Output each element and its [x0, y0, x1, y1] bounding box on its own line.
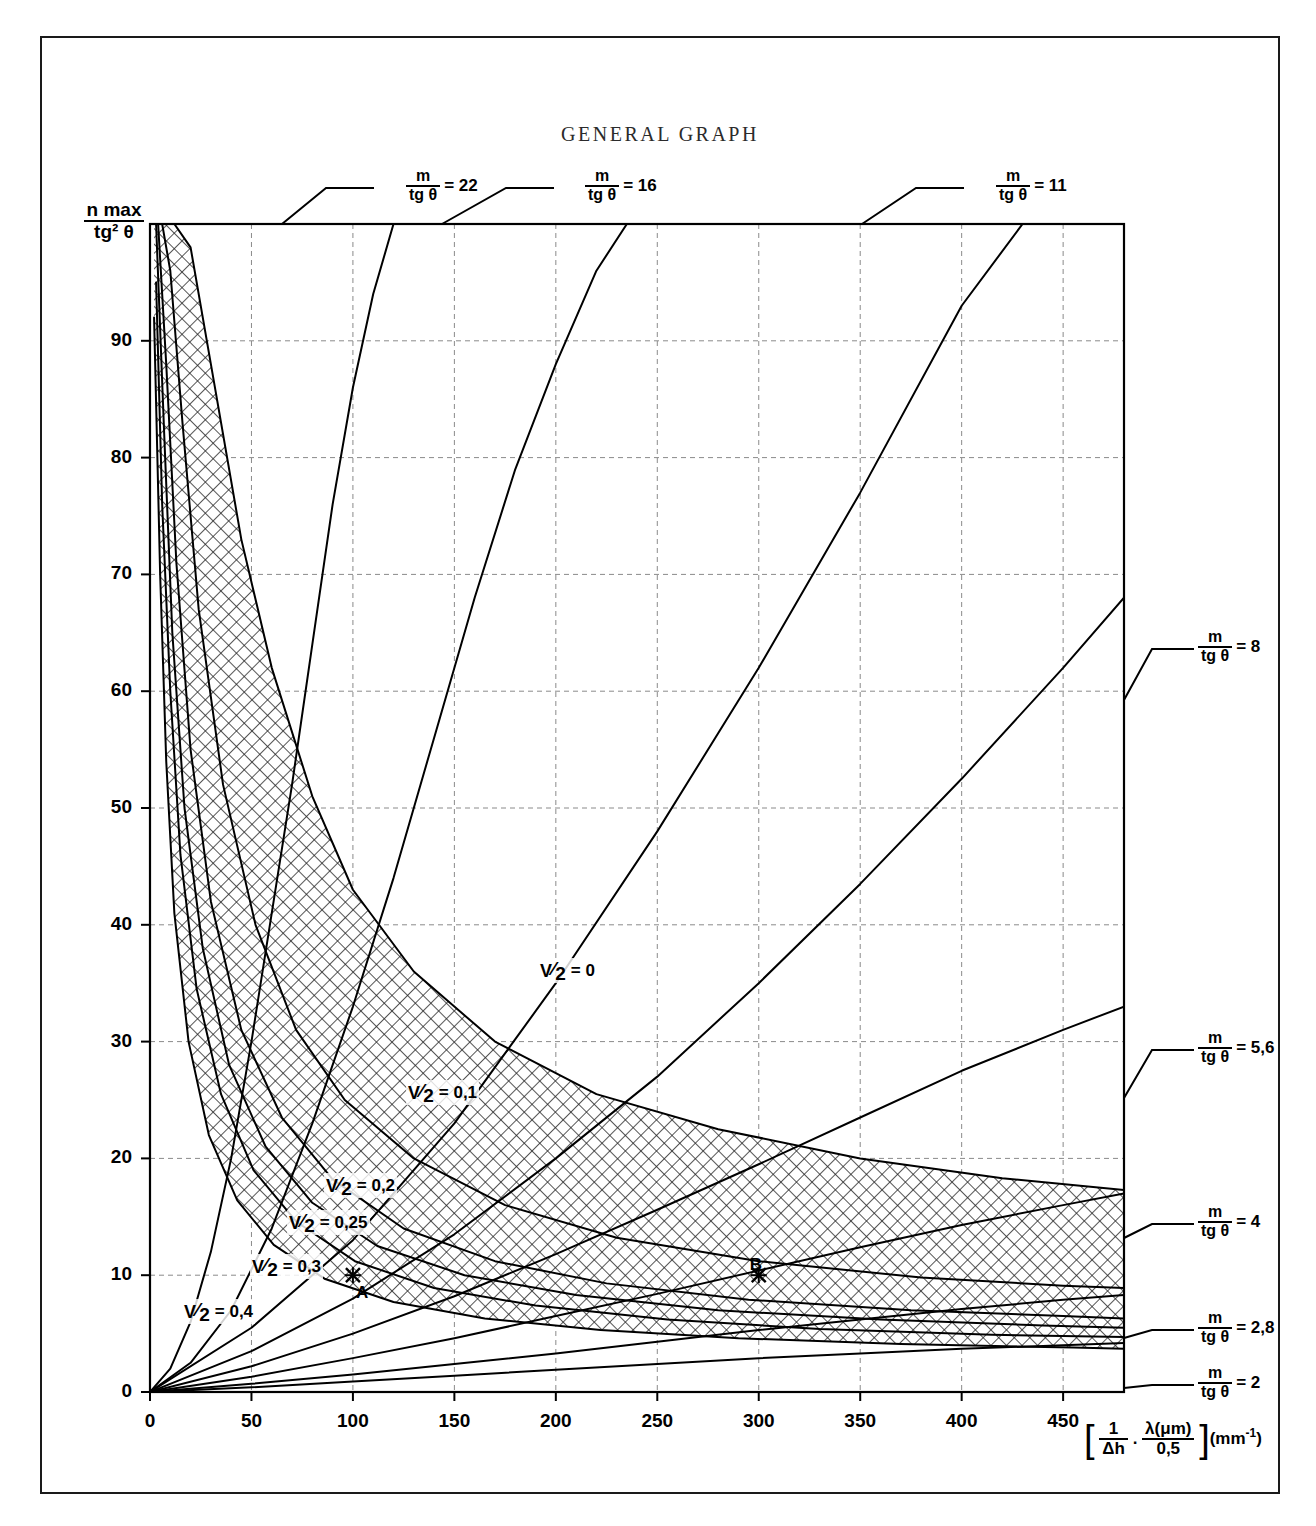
y-tick-label: 30 [82, 1030, 132, 1052]
marker-label-a: A [356, 1283, 368, 1303]
curve-m-tg-2 [150, 1343, 1124, 1392]
v-curve-label-v04: V⁄2= 0,4 [182, 1299, 255, 1324]
x-tick-label: 200 [526, 1410, 586, 1432]
m-curve-label-m11: mtg θ= 11 [996, 168, 1067, 204]
x-tick-label: 350 [830, 1410, 890, 1432]
x-tick-label: 50 [221, 1410, 281, 1432]
page-root: GENERAL GRAPH [0, 0, 1316, 1526]
m-curve-label-m22: mtg θ= 22 [406, 168, 478, 204]
x-axis-label: [ 1 Δh . λ(μm) 0,5 ](mm-1) [1084, 1420, 1262, 1458]
figure-frame: GENERAL GRAPH [40, 36, 1280, 1494]
x-tick-label: 100 [323, 1410, 383, 1432]
y-axis-label-numerator: n max [84, 200, 145, 222]
y-tick-label: 90 [82, 329, 132, 351]
x-label-f2-num: λ(μm) [1142, 1420, 1194, 1440]
y-tick-label: 50 [82, 796, 132, 818]
y-tick-label: 80 [82, 446, 132, 468]
y-tick-label: 60 [82, 679, 132, 701]
x-tick-label: 250 [627, 1410, 687, 1432]
chart-canvas [42, 38, 1282, 1496]
x-label-unit-open: (mm [1210, 1429, 1246, 1449]
v-curve-label-v01: V⁄2= 0,1 [406, 1080, 479, 1105]
v-curve-label-v0: V⁄2= 0 [538, 958, 597, 983]
y-axis-label: n max tg² θ [68, 200, 160, 242]
x-label-f1-num: 1 [1099, 1420, 1128, 1440]
v-curve-label-v03: V⁄2= 0,3 [250, 1254, 323, 1279]
y-tick-label: 70 [82, 562, 132, 584]
m-curve-label-m28: mtg θ= 2,8 [1198, 1310, 1275, 1346]
m-curve-label-m8: mtg θ= 8 [1198, 629, 1260, 665]
x-tick-label: 450 [1033, 1410, 1093, 1432]
v-curve-label-v02: V⁄2= 0,2 [324, 1173, 397, 1198]
x-label-dot: . [1133, 1429, 1138, 1449]
m-curve-label-m4: mtg θ= 4 [1198, 1204, 1260, 1240]
x-label-unit-exponent: -1 [1246, 1426, 1257, 1440]
x-tick-label: 150 [424, 1410, 484, 1432]
m-curve-label-m2: mtg θ= 2 [1198, 1365, 1260, 1401]
m-curve-label-m56: mtg θ= 5,6 [1198, 1030, 1275, 1066]
x-label-f2-den: 0,5 [1142, 1440, 1194, 1458]
y-tick-label: 40 [82, 913, 132, 935]
x-tick-label: 300 [729, 1410, 789, 1432]
bracket-close: ] [1199, 1424, 1210, 1454]
marker-a [345, 1267, 361, 1283]
y-tick-label: 20 [82, 1146, 132, 1168]
y-tick-label: 0 [82, 1380, 132, 1402]
v-curve-label-v025: V⁄2= 0,25 [287, 1210, 370, 1235]
x-label-unit-close: ) [1256, 1429, 1262, 1449]
y-axis-label-denominator: tg² θ [84, 222, 145, 242]
m-curve-label-m16: mtg θ= 16 [585, 168, 657, 204]
x-tick-label: 0 [120, 1410, 180, 1432]
x-label-f1-den: Δh [1099, 1440, 1128, 1458]
x-tick-label: 400 [932, 1410, 992, 1432]
y-tick-label: 10 [82, 1263, 132, 1285]
hatched-region [154, 224, 1124, 1349]
marker-label-b: B [750, 1255, 762, 1275]
